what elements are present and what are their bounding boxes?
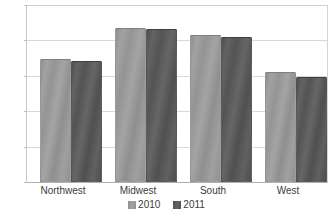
- gridline-25: [27, 5, 327, 6]
- y-tick-20: [24, 40, 27, 41]
- bar-northwest-2010[interactable]: [40, 59, 71, 182]
- bar-south-2011[interactable]: [221, 37, 252, 182]
- chart-legend: 2010 2011: [0, 200, 333, 210]
- plot-area: [26, 5, 328, 183]
- y-tick-25: [24, 5, 27, 6]
- legend-label-2011: 2011: [183, 200, 205, 210]
- bar-west-2010[interactable]: [265, 72, 296, 182]
- legend-swatch-icon-2011: [173, 201, 181, 209]
- y-tick-10: [24, 111, 27, 112]
- bar-west-2011[interactable]: [296, 77, 327, 182]
- legend-label-2010: 2010: [138, 200, 160, 210]
- bar-northwest-2011[interactable]: [71, 61, 102, 182]
- legend-item-2011[interactable]: 2011: [173, 200, 205, 210]
- bar-midwest-2011[interactable]: [146, 29, 177, 182]
- gridline-20: [27, 40, 327, 41]
- x-axis-label-west: West: [234, 185, 333, 196]
- legend-item-2010[interactable]: 2010: [128, 200, 160, 210]
- y-tick-0: [24, 182, 27, 183]
- bar-south-2010[interactable]: [190, 35, 221, 182]
- bar-midwest-2010[interactable]: [115, 28, 146, 182]
- y-tick-15: [24, 76, 27, 77]
- chart-title-cutoff: [100, 0, 230, 4]
- y-tick-5: [24, 147, 27, 148]
- bar-chart: 25% 20% 15% 10% 5% 0% Northwest Midwest …: [0, 0, 333, 218]
- legend-swatch-icon-2010: [128, 201, 136, 209]
